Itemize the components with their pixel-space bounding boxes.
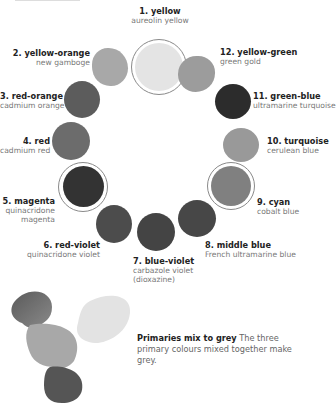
label-red-violet: 6. red-violetquinacridone violet [0, 240, 100, 259]
primary-mix-blob [0, 283, 135, 403]
swatch-cyan [211, 166, 251, 206]
label-yellow-green: 12. yellow-greengreen gold [220, 47, 297, 66]
label-red: 4. redcadmium red [0, 136, 50, 155]
label-yellow: 1. yellowaureolin yellow [120, 6, 200, 25]
swatch-red [52, 122, 90, 160]
caption-title: Primaries mix to grey [137, 333, 237, 343]
swatch-yellow-orange [92, 48, 128, 86]
label-cyan: 9. cyancobalt blue [257, 197, 299, 216]
caption: Primaries mix to grey The three primary … [137, 333, 307, 366]
label-blue-violet: 7. blue-violetcarbazole violet(dioxazine… [133, 256, 194, 284]
label-green-blue: 11. green-blueultramarine turquoise [253, 91, 336, 110]
swatch-turquoise [223, 128, 259, 162]
label-middle-blue: 8. middle blueFrench ultramarine blue [205, 240, 296, 259]
label-yellow-orange: 2. yellow-orangenew gamboge [0, 48, 90, 67]
swatch-middle-blue [178, 200, 216, 237]
label-red-orange: 3. red-orangecadmium orange [0, 91, 62, 110]
swatch-red-orange [64, 81, 100, 118]
label-magenta: 5. magentaquinacridonemagenta [0, 196, 55, 224]
swatch-yellow-green [178, 56, 215, 92]
swatch-magenta [63, 166, 104, 207]
swatch-green-blue [215, 84, 251, 119]
swatch-red-violet [96, 205, 132, 243]
label-turquoise: 10. turquoisecerulean blue [267, 136, 329, 155]
swatch-blue-violet [137, 213, 175, 251]
cropped-text-remnant [15, 0, 80, 4]
swatch-yellow [135, 43, 183, 91]
